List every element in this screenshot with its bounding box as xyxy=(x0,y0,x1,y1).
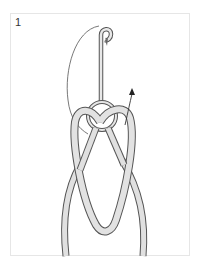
line-loop xyxy=(74,109,131,231)
knot-diagram xyxy=(0,0,203,267)
